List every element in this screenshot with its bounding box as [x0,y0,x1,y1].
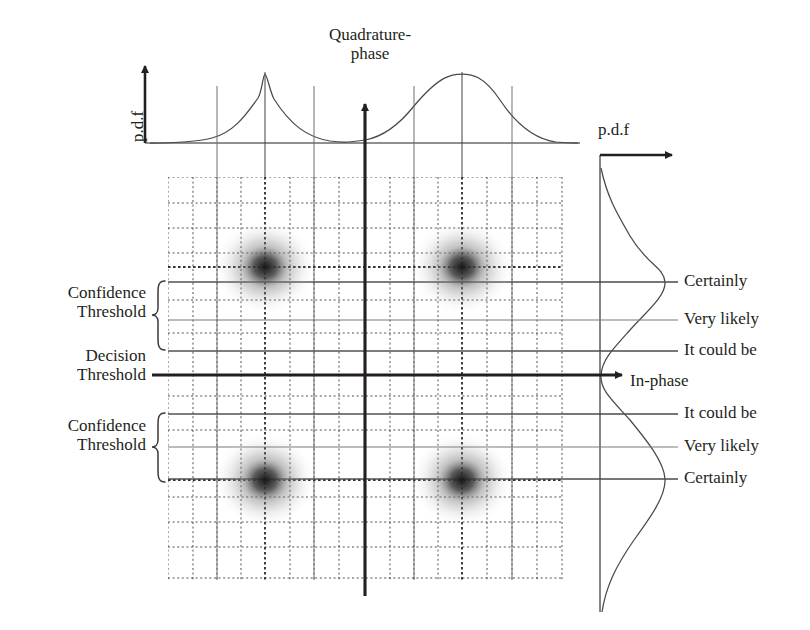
label-certainly-lower: Certainly [684,468,747,488]
label-it-could-be-lower: It could be [684,403,757,423]
label-very-likely-upper: Very likely [684,309,759,329]
quadrature-phase-label-line1: Quadrature- [300,26,440,45]
label-confidence-threshold-upper: Confidence Threshold [0,283,146,321]
decision-threshold-line2: Threshold [0,365,146,384]
confidence-threshold-upper-line2: Threshold [0,302,146,321]
quadrature-phase-label-line2: phase [300,45,440,64]
confidence-threshold-lower-line2: Threshold [0,435,146,454]
confidence-threshold-lower-line1: Confidence [0,416,146,435]
confidence-brace-upper [152,281,165,350]
label-very-likely-lower: Very likely [684,436,759,456]
label-certainly-upper: Certainly [684,271,747,291]
label-it-could-be-upper: It could be [684,340,757,360]
label-in-phase: In-phase [630,371,689,391]
label-confidence-threshold-lower: Confidence Threshold [0,416,146,454]
pdf-top-panel [145,66,580,177]
pdf-right-label: p.d.f [598,120,629,140]
confidence-threshold-upper-line1: Confidence [0,283,146,302]
figure-canvas: p.d.f Quadrature- phase p.d.f Confidence… [0,0,810,630]
label-decision-threshold: Decision Threshold [0,346,146,384]
pdf-top-label: p.d.f [128,111,148,142]
decision-threshold-line1: Decision [0,346,146,365]
quadrature-phase-label: Quadrature- phase [300,26,440,63]
confidence-brace-lower [152,413,165,482]
